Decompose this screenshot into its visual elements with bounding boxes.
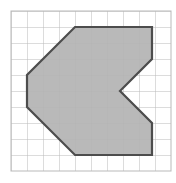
geometry-figure [0,0,176,183]
figure-canvas [0,0,176,183]
